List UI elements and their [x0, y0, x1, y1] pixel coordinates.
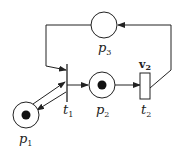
arc-p1-t1	[33, 82, 65, 104]
transition-t2	[140, 73, 150, 99]
label-t1: t1	[63, 102, 73, 119]
arc-p3-t1	[46, 25, 91, 70]
label-p3: p3	[98, 40, 111, 57]
label-t2: t2	[141, 102, 151, 119]
arc-t1-p1	[37, 92, 66, 110]
token-p2	[98, 81, 107, 90]
token-p1	[22, 111, 31, 120]
label-p1: p1	[19, 131, 32, 148]
label-v2: v2	[138, 58, 151, 72]
label-p2: p2	[96, 102, 109, 119]
place-p3	[91, 12, 117, 38]
petri-net-diagram: p3 v2 t1 p2 t2 p1	[0, 0, 182, 150]
